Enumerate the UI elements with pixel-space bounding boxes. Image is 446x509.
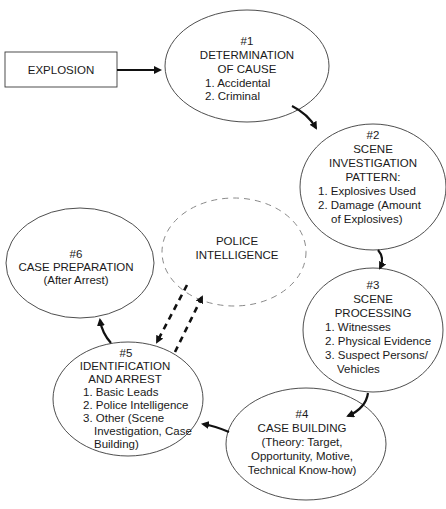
node-item: Investigation, Case (94, 425, 192, 437)
node-title-line: OF CAUSE (218, 63, 277, 75)
arrow-2-to-3 (378, 250, 382, 268)
node-item: 2. Damage (Amount (318, 199, 422, 211)
node-number: #5 (120, 347, 133, 359)
node-item: (After Arrest) (43, 274, 108, 286)
node-item: Opportunity, Motive, (251, 450, 353, 462)
investigation-flow-diagram: EXPLOSION POLICE INTELLIGENCE #1 DETERMI… (0, 0, 446, 509)
node-title-line: POLICE (216, 235, 259, 247)
node-number: #2 (367, 129, 380, 141)
node-item: 1. Accidental (205, 77, 270, 89)
node-item: (Theory: Target, (262, 436, 343, 448)
node-item: Vehicles (337, 363, 380, 375)
node-title-line: AND ARREST (88, 373, 162, 385)
arrow-4-to-5 (203, 424, 229, 432)
node-item: 1. Witnesses (325, 321, 391, 333)
node-title-line: CASE PREPARATION (18, 261, 133, 273)
explosion-box: EXPLOSION (5, 52, 117, 87)
node-3-scene-processing: #3 SCENE PROCESSING 1. Witnesses 2. Phys… (303, 268, 443, 392)
node-title-line: IDENTIFICATION (80, 360, 171, 372)
node-title-line: INVESTIGATION (329, 157, 417, 169)
node-6-case-preparation: #6 CASE PREPARATION (After Arrest) (6, 208, 154, 318)
node-title-line: PATTERN: (345, 171, 400, 183)
node-title-line: INTELLIGENCE (195, 249, 278, 261)
node-2-scene-investigation-pattern: #2 SCENE INVESTIGATION PATTERN: 1. Explo… (300, 124, 446, 250)
node-number: #4 (296, 408, 309, 420)
node-item: Building) (94, 438, 139, 450)
explosion-label: EXPLOSION (28, 64, 94, 76)
node-item: 2. Physical Evidence (325, 335, 431, 347)
node-item: Technical Know-how) (248, 464, 357, 476)
node-item: 3. Suspect Persons/ (325, 349, 429, 361)
node-number: #6 (70, 248, 83, 260)
node-title-line: DETERMINATION (200, 49, 294, 61)
node-title-line: SCENE (353, 143, 393, 155)
node-title-line: CASE BUILDING (258, 422, 347, 434)
node-1-determination-of-cause: #1 DETERMINATION OF CAUSE 1. Accidental … (165, 10, 329, 122)
node-item: 2. Criminal (205, 90, 260, 102)
node-number: #1 (241, 35, 254, 47)
arrow-5-to-6 (100, 320, 111, 343)
dashed-arrow-intel-to-5 (157, 285, 187, 342)
node-item: 3. Other (Scene (83, 412, 164, 424)
node-item: 2. Police Intelligence (83, 399, 188, 411)
node-item: 1. Basic Leads (83, 386, 159, 398)
node-number: #3 (367, 279, 380, 291)
node-item: of Explosives) (331, 213, 403, 225)
dashed-arrow-5-to-intel (175, 297, 202, 352)
node-title-line: SCENE (353, 293, 393, 305)
node-item: 1. Explosives Used (318, 185, 416, 197)
node-title-line: PROCESSING (335, 307, 412, 319)
node-5-identification-and-arrest: #5 IDENTIFICATION AND ARREST 1. Basic Le… (53, 342, 203, 456)
